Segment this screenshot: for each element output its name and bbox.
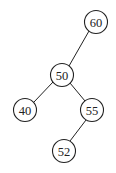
node-label: 50 (56, 69, 69, 83)
node-label: 52 (58, 145, 71, 159)
node-label: 40 (19, 104, 32, 118)
node-55: 55 (81, 99, 104, 122)
node-label: 55 (86, 104, 99, 118)
edge-55-52 (70, 120, 86, 141)
tree-diagram: 60 50 40 55 52 (0, 0, 116, 173)
edge-50-40 (34, 82, 53, 102)
node-60: 60 (85, 11, 108, 34)
node-50: 50 (51, 64, 74, 87)
node-label: 60 (90, 16, 103, 30)
node-52: 52 (53, 140, 76, 163)
edge-50-55 (70, 83, 85, 101)
edge-60-50 (69, 31, 89, 66)
node-40: 40 (14, 99, 37, 122)
nodes: 60 50 40 55 52 (14, 11, 108, 163)
